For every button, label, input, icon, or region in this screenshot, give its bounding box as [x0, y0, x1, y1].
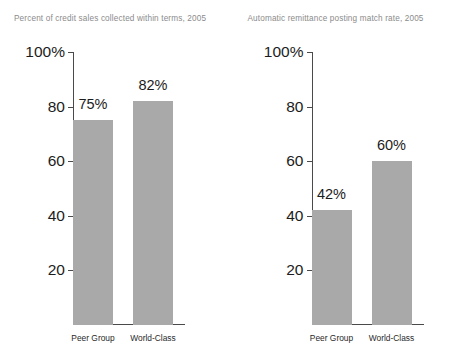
- bar-peer-group[interactable]: [73, 120, 113, 325]
- y-tick-label: 20: [286, 261, 303, 279]
- chart-title-right: Automatic remittance posting match rate,…: [248, 14, 424, 23]
- y-tick-label: 80: [48, 98, 65, 116]
- plot-area-left: 100% 80 60 40 20 75% 82% Pe: [73, 52, 185, 325]
- bar-value-world-class: 82%: [138, 77, 167, 93]
- bar-world-class[interactable]: [133, 101, 173, 325]
- x-category-label-peer-group: Peer Group: [71, 333, 114, 343]
- y-tick-label: 60: [286, 152, 303, 170]
- bar-value-peer-group: 42%: [317, 186, 346, 202]
- chart-figure: Percent of credit sales collected within…: [0, 0, 467, 352]
- y-tick-label: 60: [48, 152, 65, 170]
- bar-peer-group[interactable]: [312, 210, 352, 325]
- y-tick-label: 20: [48, 261, 65, 279]
- x-category-label-world-class: World-Class: [369, 333, 414, 343]
- chart-title-left: Percent of credit sales collected within…: [14, 14, 206, 23]
- y-tick-label: 100%: [264, 43, 304, 61]
- chart-panel-right: Automatic remittance posting match rate,…: [234, 0, 467, 352]
- bar-value-peer-group: 75%: [78, 96, 107, 112]
- y-tick-label: 40: [48, 207, 65, 225]
- chart-panel-left: Percent of credit sales collected within…: [0, 0, 234, 352]
- y-tick-label: 80: [286, 98, 303, 116]
- x-category-label-world-class: World-Class: [130, 333, 175, 343]
- plot-area-right: 100% 80 60 40 20 42% 60% Peer Grou: [312, 52, 424, 325]
- bar-world-class[interactable]: [372, 161, 412, 325]
- y-tick-label: 100%: [25, 43, 65, 61]
- x-category-label-peer-group: Peer Group: [310, 333, 353, 343]
- y-tick-label: 40: [286, 207, 303, 225]
- bar-value-world-class: 60%: [377, 137, 406, 153]
